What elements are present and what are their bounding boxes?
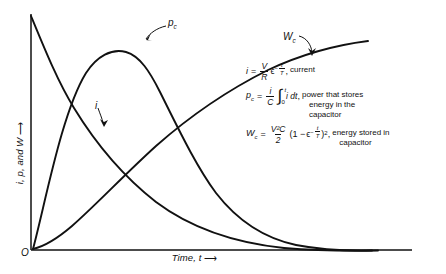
- eq2-description-line2: energy in the: [302, 100, 363, 110]
- eq1-exp-fraction: tT: [279, 62, 285, 76]
- x-axis-label: Time, t ⟶: [134, 252, 254, 263]
- y-axis-arrow: ⟶: [15, 123, 25, 135]
- eq1-description: current: [290, 62, 315, 75]
- eq3-description-line1: energy stored in: [332, 128, 389, 137]
- eq2-lhs-sub: c: [251, 96, 254, 102]
- eq2-integral: t ∫ 0: [277, 90, 282, 102]
- eq2-fraction: i C: [266, 87, 274, 106]
- rc-charging-figure: i, p, and W ⟶ Time, t ⟶ O pc Wc i i = V …: [0, 0, 446, 274]
- curve-label-i: i: [95, 100, 97, 111]
- eq3-power: 2: [324, 130, 327, 136]
- eq1-exp-sign: −: [274, 65, 278, 71]
- eq3-comma: ,: [328, 130, 331, 139]
- i-arrowhead: [100, 119, 108, 127]
- eq1-fraction: V R: [260, 62, 268, 81]
- curve-label-wc-sub: c: [292, 37, 295, 44]
- eq3-open-paren: (1 −: [289, 130, 305, 139]
- eq3-description: energy stored in capacitor: [332, 125, 389, 148]
- eq2-integral-upper: t: [284, 87, 286, 93]
- eq3-numerator: V²C: [270, 125, 287, 134]
- eq3-exp-sign: −: [310, 129, 314, 135]
- x-axis-label-text: Time, t: [172, 252, 202, 263]
- origin-label: O: [21, 247, 29, 258]
- eq3-lhs-text: W: [246, 128, 255, 138]
- eq2-equals: =: [257, 92, 262, 101]
- x-axis-arrow: ⟶: [204, 253, 216, 263]
- eq2-numerator: i: [268, 87, 272, 96]
- curve-label-pc: pc: [168, 17, 177, 30]
- eq2-lhs: pc: [246, 91, 254, 102]
- eq1-equals: =: [251, 67, 256, 76]
- eq1-exp-den: T: [279, 68, 285, 76]
- y-axis-label: i, p, and W ⟶: [14, 111, 25, 197]
- eq2-description-line3: capacitor: [302, 110, 363, 120]
- eq3-fraction: V²C 2: [270, 125, 287, 144]
- eq2-integral-lower: 0: [281, 99, 284, 105]
- eq3-lhs-sub: c: [255, 134, 258, 140]
- curve-label-pc-sub: c: [174, 23, 177, 30]
- eq2-description: power that stores energy in the capacito…: [302, 87, 363, 119]
- eq2-integrand: i dt: [286, 92, 297, 101]
- eq1-exponent: −tT: [274, 62, 285, 76]
- equations-block: i = V R ϵ−tT, current pc = i C t: [246, 62, 446, 154]
- eq2-description-line1: power that stores: [302, 90, 363, 99]
- eq2-comma: ,: [297, 92, 300, 101]
- equation-energy-math: Wc = V²C 2 (1 − ϵ−tT)2,: [246, 125, 330, 144]
- eq1-numerator: V: [261, 62, 269, 71]
- eq1-comma: ,: [286, 67, 289, 76]
- eq3-denominator: 2: [275, 134, 282, 144]
- eq3-equals: =: [261, 130, 266, 139]
- y-axis-label-text: i, p, and W: [14, 138, 25, 185]
- equation-energy: Wc = V²C 2 (1 − ϵ−tT)2, energy stored in…: [246, 125, 446, 148]
- eq3-exponent: −tT: [310, 125, 321, 139]
- eq3-exp-fraction: tT: [315, 125, 321, 139]
- eq3-exp-den: T: [315, 131, 321, 139]
- eq1-lhs: i: [246, 67, 248, 76]
- curve-label-wc: Wc: [283, 31, 296, 44]
- eq1-denominator: R: [260, 71, 268, 81]
- equation-current-math: i = V R ϵ−tT,: [246, 62, 288, 81]
- eq3-description-line2: capacitor: [332, 138, 389, 148]
- equation-current: i = V R ϵ−tT, current: [246, 62, 446, 81]
- equation-power-math: pc = i C t ∫ 0 i dt,: [246, 87, 300, 106]
- equation-power: pc = i C t ∫ 0 i dt, power that stores e…: [246, 87, 446, 119]
- eq2-denominator: C: [266, 96, 274, 106]
- eq3-lhs: Wc: [246, 129, 258, 140]
- curve-label-i-text: i: [95, 100, 97, 111]
